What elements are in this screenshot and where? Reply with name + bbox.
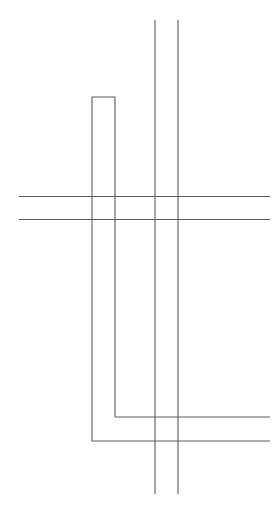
line-drawing-figure: [0, 0, 280, 514]
drawing-canvas: [0, 0, 280, 514]
canvas-background: [0, 0, 280, 514]
